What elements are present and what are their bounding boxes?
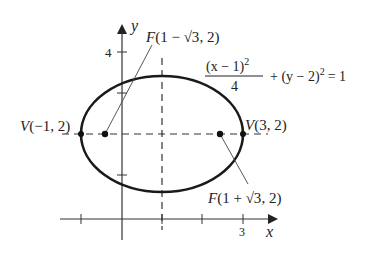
vertex-left-point: [78, 131, 84, 137]
y-axis-label: y: [129, 17, 139, 35]
focus-right-point: [217, 131, 223, 137]
y-axis: [117, 26, 127, 240]
focus-right-label: F(1 + √3, 2): [207, 190, 281, 207]
x-axis: [60, 214, 276, 224]
x-axis-label: x: [265, 223, 273, 240]
ellipse-equation: (x − 1)2 4 + (y − 2)2= 1: [205, 56, 346, 94]
equation-rest: + (y − 2)2= 1: [270, 66, 346, 85]
y-tick-label-4: 4: [105, 45, 112, 60]
focus-left-point: [102, 131, 108, 137]
x-tick-label-3: 3: [239, 225, 245, 239]
vertex-left-label: V(−1, 2): [20, 118, 70, 135]
vertex-right-label: V(3, 2): [245, 117, 287, 134]
ellipse-diagram: y x 4 3 V(−1, 2) V(3, 2) F(1 − √3, 2) F(…: [0, 0, 382, 255]
focus-right-leader: [220, 134, 248, 184]
equation-denominator: 4: [231, 79, 238, 94]
focus-left-label: F(1 − √3, 2): [145, 29, 219, 46]
equation-numerator: (x − 1)2: [206, 56, 249, 75]
